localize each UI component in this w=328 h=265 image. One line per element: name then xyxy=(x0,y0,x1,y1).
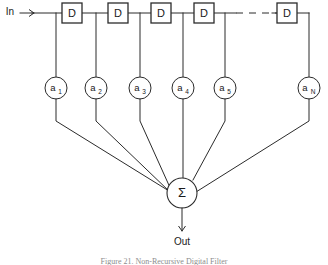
coefficient-subscript-5: 5 xyxy=(227,88,231,95)
delay-box-1: D xyxy=(62,3,82,23)
delay-box-n-label: D xyxy=(283,7,291,19)
filter-diagram: In D D D D D xyxy=(0,0,328,265)
coefficient-label-3: a xyxy=(134,82,140,93)
coefficient-node-1: a 1 xyxy=(45,77,67,99)
delay-box-1-label: D xyxy=(68,7,76,19)
input-arrow xyxy=(20,10,34,17)
input-label: In xyxy=(6,6,14,17)
summing-junction-symbol: Σ xyxy=(178,185,186,200)
fanin-path-5 xyxy=(193,99,225,180)
coefficient-circle-1 xyxy=(45,77,67,99)
coefficient-label-5: a xyxy=(219,82,225,93)
coefficient-circle-4 xyxy=(172,77,194,99)
coefficient-label-n: a xyxy=(302,82,308,93)
fanin-path-n xyxy=(196,99,309,192)
summing-junction: Σ xyxy=(167,178,197,208)
coefficient-node-2: a 2 xyxy=(85,77,107,99)
coefficient-subscript-1: 1 xyxy=(58,88,62,95)
coefficient-subscript-n: N xyxy=(311,88,316,95)
coefficient-label-2: a xyxy=(90,82,96,93)
output-arrow xyxy=(179,208,186,231)
coefficient-subscript-3: 3 xyxy=(142,88,146,95)
delay-box-4-label: D xyxy=(200,7,208,19)
coefficient-circle-3 xyxy=(129,77,151,99)
coefficient-label-4: a xyxy=(177,82,183,93)
tap-drop-group xyxy=(56,13,309,77)
coefficient-circle-2 xyxy=(85,77,107,99)
coefficient-node-5: a 5 xyxy=(214,77,236,99)
delay-box-3-label: D xyxy=(157,7,165,19)
output-label: Out xyxy=(174,236,190,247)
coefficient-node-n: a N xyxy=(298,77,320,99)
coefficient-circle-5 xyxy=(214,77,236,99)
delay-box-2: D xyxy=(108,3,128,23)
fanin-path-2 xyxy=(96,99,170,192)
delay-box-2-label: D xyxy=(114,7,122,19)
fanin-path-1 xyxy=(56,99,169,191)
delay-box-4: D xyxy=(194,3,214,23)
figure-root: In D D D D D xyxy=(0,0,328,265)
coefficient-subscript-2: 2 xyxy=(98,88,102,95)
delay-box-n: D xyxy=(277,3,297,23)
coefficient-label-1: a xyxy=(50,82,56,93)
coefficient-subscript-4: 4 xyxy=(185,88,189,95)
coefficient-node-3: a 3 xyxy=(129,77,151,99)
delay-box-3: D xyxy=(151,3,171,23)
figure-caption: Figure 21. Non-Recursive Digital Filter xyxy=(0,256,328,265)
coefficient-node-4: a 4 xyxy=(172,77,194,99)
coefficient-circle-n xyxy=(298,77,320,99)
